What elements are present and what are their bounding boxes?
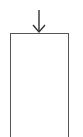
diagram-box — [10, 33, 69, 137]
